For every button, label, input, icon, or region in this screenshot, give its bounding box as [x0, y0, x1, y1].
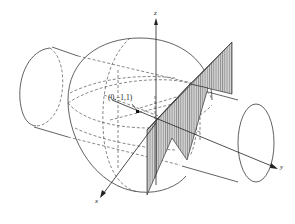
hatched-plane [147, 42, 232, 195]
right-cylinder-cap [238, 104, 274, 182]
point-marker [136, 110, 139, 113]
z-arrow-icon [154, 18, 158, 25]
y-axis-label: y [280, 163, 283, 171]
y-arrow-icon [270, 163, 278, 169]
z-axis-label: z [154, 9, 157, 17]
point-label: (0,−1,1) [108, 93, 132, 102]
sphere-cylinder-diagram [0, 0, 295, 224]
x-axis-label: x [95, 197, 98, 205]
left-cylinder-cap [20, 48, 63, 126]
